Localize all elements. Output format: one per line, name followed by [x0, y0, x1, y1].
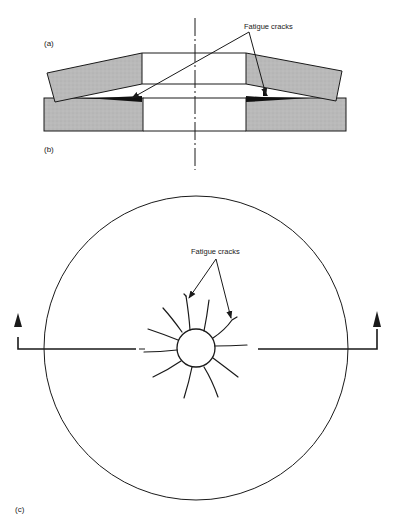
section-arrow-left-icon [14, 313, 22, 327]
cross-section-view: (a) (b) Fatigue cracks [44, 18, 346, 170]
central-hole [177, 329, 215, 367]
plan-view: Fatigue cracks (c) [14, 196, 381, 514]
upper-washer-right [246, 53, 342, 101]
section-arrow-right-icon [373, 311, 381, 327]
upper-washer-left [47, 53, 142, 102]
callout-arrow-c-left [189, 259, 216, 298]
lower-plate-right [246, 98, 346, 131]
fatigue-crack-diagram: (a) (b) Fatigue cracks [0, 0, 397, 524]
callout-arrow-left [132, 32, 249, 98]
panel-label-a: (a) [44, 39, 54, 48]
panel-label-b: (b) [44, 145, 54, 154]
lower-plate-left [44, 98, 143, 131]
panel-label-c: (c) [15, 505, 25, 514]
callout-label-top: Fatigue cracks [244, 22, 293, 31]
callout-label-bottom: Fatigue cracks [191, 247, 240, 256]
callout-arrow-c-right [216, 259, 231, 318]
